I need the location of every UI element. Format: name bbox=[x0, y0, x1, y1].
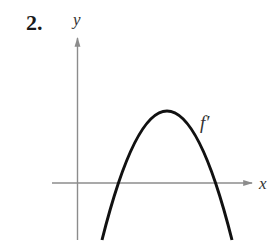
curve-label: f′ bbox=[200, 112, 210, 133]
y-axis-label: y bbox=[71, 10, 81, 29]
x-axis-label: x bbox=[258, 174, 267, 193]
graph: y x f′ bbox=[0, 0, 279, 247]
f-prime-curve bbox=[102, 111, 232, 240]
